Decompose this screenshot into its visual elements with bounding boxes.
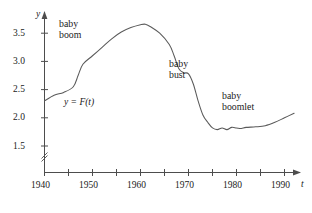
curve-equation-label: y = F(t): [64, 97, 94, 107]
annotation-baby-bust: baby bust: [169, 59, 188, 80]
annotation-baby-boomlet: baby boomlet: [222, 91, 254, 112]
y-tick-label-4: 3.0: [13, 56, 25, 66]
annotation-baby-boomlet-line2: boomlet: [222, 102, 254, 113]
y-axis-label: y: [36, 9, 40, 19]
y-tick-label-3: 2.5: [13, 84, 25, 94]
annotation-baby-bust-line2: bust: [169, 70, 188, 81]
y-tick-label-5: 3.5: [13, 28, 25, 38]
x-tick-label-1980: 1980: [223, 180, 242, 190]
annotation-baby-boom-line2: boom: [59, 30, 81, 41]
x-tick-label-1990: 1990: [271, 180, 290, 190]
x-axis-arrowhead: [293, 170, 301, 176]
fertility-rate-figure: 1.5 2.0 2.5 3.0 3.5 1940 1950 1960 1970 …: [0, 0, 312, 213]
annotation-baby-boom: baby boom: [59, 19, 81, 40]
x-tick-label-1970: 1970: [175, 180, 194, 190]
annotation-baby-bust-line1: baby: [169, 59, 188, 70]
annotation-baby-boomlet-line1: baby: [222, 91, 254, 102]
annotation-baby-boom-line1: baby: [59, 19, 81, 30]
x-tick-label-1940: 1940: [31, 180, 50, 190]
y-axis-arrowhead: [42, 11, 48, 19]
x-tick-label-1950: 1950: [79, 180, 98, 190]
x-axis-label: t: [301, 179, 304, 189]
y-tick-label-1: 1.5: [13, 141, 25, 151]
y-tick-label-2: 2.0: [13, 112, 25, 122]
x-tick-label-1960: 1960: [127, 180, 146, 190]
